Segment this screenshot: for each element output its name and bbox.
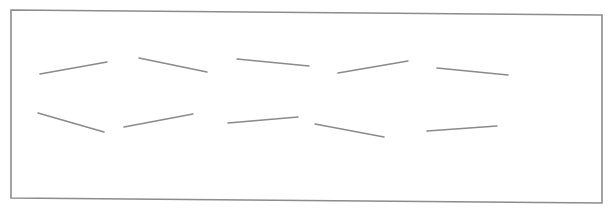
- line-segment-diagram: [0, 0, 614, 215]
- background: [0, 0, 614, 215]
